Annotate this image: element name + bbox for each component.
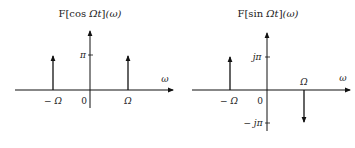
cos-spectrum-plot: F[cos Ωt](ω) π − Ω 0 Ω ω xyxy=(15,8,173,108)
sin-spectrum-plot: F[sin Ωt](ω) jπ − jπ − Ω 0 Ω ω xyxy=(192,8,350,131)
fourier-spectra-diagram: F[cos Ωt](ω) π − Ω 0 Ω ω F[sin Ωt](ω) jπ… xyxy=(0,0,355,148)
sin-zero-label: 0 xyxy=(257,96,263,106)
cos-pi-label: π xyxy=(79,50,87,60)
sin-neg-jpi-label: − jπ xyxy=(243,118,263,128)
sin-jpi-label: jπ xyxy=(251,52,263,62)
cos-omega-axis-label: ω xyxy=(161,74,169,84)
sin-pos-omega-label: Ω xyxy=(299,77,308,87)
cos-zero-label: 0 xyxy=(81,96,87,106)
sin-plot-title: F[sin Ωt](ω) xyxy=(238,8,299,19)
sin-omega-axis-label: ω xyxy=(339,73,347,83)
cos-neg-omega-label: − Ω xyxy=(44,96,62,106)
cos-pos-omega-label: Ω xyxy=(123,96,132,106)
cos-plot-title: F[cos Ωt](ω) xyxy=(59,8,122,19)
sin-neg-omega-label: − Ω xyxy=(220,96,238,106)
